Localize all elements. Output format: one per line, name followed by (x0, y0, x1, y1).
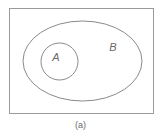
venn-diagram: A B (0, 0, 161, 137)
set-b-label: B (109, 41, 116, 53)
set-a-label: A (51, 51, 59, 63)
figure-caption: (a) (0, 120, 161, 130)
universal-set-rectangle (10, 9, 154, 114)
